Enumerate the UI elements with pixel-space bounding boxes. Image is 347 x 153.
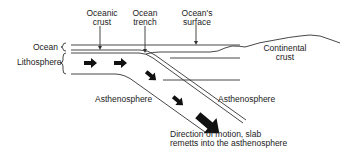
label-asthenosphere-left: Asthenosphere [95, 95, 152, 104]
label-asthenosphere-right: Asthenosphere [218, 95, 275, 104]
label-lithosphere: Lithosphere [17, 58, 61, 67]
arrow-diag-2 [170, 93, 186, 109]
oceanic-crust-bottom [71, 53, 243, 123]
arrow-right-1 [84, 58, 97, 68]
label-oceans-surface: Ocean's surface [179, 9, 215, 27]
label-direction-of-motion: Direction of motion, slab remetts into t… [170, 130, 287, 148]
arrow-right-2 [114, 58, 127, 68]
label-ocean: Ocean [33, 43, 58, 52]
arrow-diag-1 [143, 68, 159, 84]
label-ocean-trench: Ocean trench [128, 9, 162, 27]
label-continental-crust: Continental crust [260, 44, 310, 62]
oceanic-crust-top [71, 50, 246, 120]
continental-surface [146, 35, 340, 54]
ocean-brace [61, 43, 66, 51]
label-oceanic-crust: Oceanic crust [82, 9, 122, 27]
subduction-diagram: Oceanic crust Ocean trench Ocean's surfa… [0, 0, 347, 153]
